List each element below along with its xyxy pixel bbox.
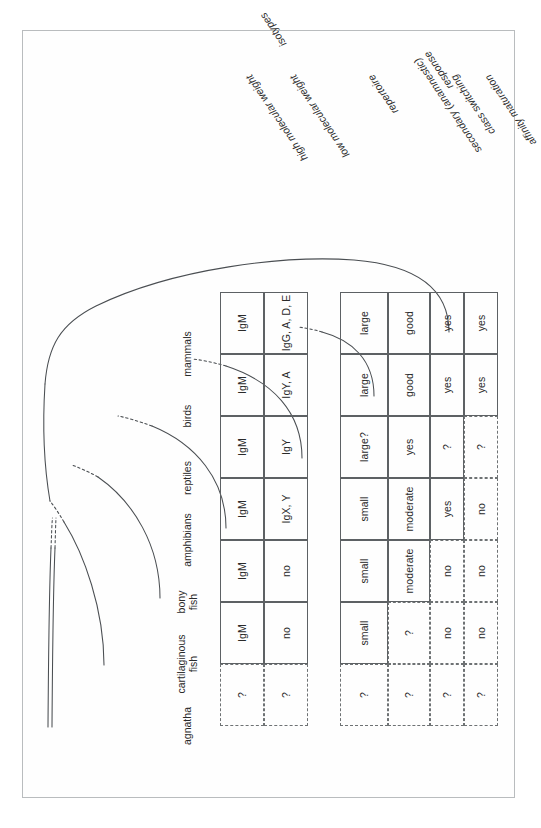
cell-high-molecular-weight-cartilaginous-fish: IgM	[220, 602, 264, 664]
cell-affinity-maturation-agnatha: ?	[464, 664, 498, 726]
tree-branch-agnatha-b	[52, 548, 55, 727]
species-label-birds-line-0: birds	[182, 380, 194, 452]
immunity-evolution-figure: ? no no no ? yes yes ? no no yes ? yes y…	[34, 44, 504, 784]
species-label-agnatha-line-0: agnatha	[182, 690, 194, 762]
tree-branch-agnatha-a-dotted	[51, 518, 52, 548]
cell-repertoire-mammals: large	[340, 292, 388, 354]
cell-low-molecular-weight-birds: IgY, A	[264, 354, 308, 416]
figure-rotation-wrapper: ? no no no ? yes yes ? no no yes ? yes y…	[34, 44, 504, 784]
cell-secondary-response-reptiles: yes	[388, 416, 430, 478]
cell-affinity-maturation-birds: yes	[464, 354, 498, 416]
cell-secondary-response-mammals: good	[388, 292, 430, 354]
cell-low-molecular-weight-reptiles: IgY	[264, 416, 308, 478]
cell-secondary-response-bony-fish: moderate	[388, 540, 430, 602]
cell-class-switching-reptiles: ?	[430, 416, 464, 478]
tree-branch-bony-fish-dotted	[72, 465, 98, 477]
cell-class-switching-birds: yes	[430, 354, 464, 416]
species-label-amphibians: amphibians	[182, 504, 194, 576]
cell-repertoire-cartilaginous-fish: small	[340, 602, 388, 664]
cell-repertoire-amphibians: small	[340, 478, 388, 540]
cell-class-switching-cartilaginous-fish: no	[430, 602, 464, 664]
cell-low-molecular-weight-cartilaginous-fish: no	[264, 602, 308, 664]
cell-secondary-response-cartilaginous-fish: ?	[388, 602, 430, 664]
species-label-birds: birds	[182, 380, 194, 452]
tree-branch-bony-fish	[98, 477, 160, 598]
species-label-reptiles-line-0: reptiles	[182, 442, 194, 514]
species-label-cartilaginous-fish-line-0: cartilaginous	[176, 628, 188, 700]
cell-repertoire-reptiles: large?	[340, 416, 388, 478]
cell-high-molecular-weight-birds: IgM	[220, 354, 264, 416]
cell-high-molecular-weight-agnatha: ?	[220, 664, 264, 726]
cell-secondary-response-birds: good	[388, 354, 430, 416]
species-label-mammals: mammals	[182, 318, 194, 390]
cell-high-molecular-weight-bony-fish: IgM	[220, 540, 264, 602]
cell-low-molecular-weight-agnatha: ?	[264, 664, 308, 726]
cell-secondary-response-amphibians: moderate	[388, 478, 430, 540]
cell-class-switching-amphibians: yes	[430, 478, 464, 540]
cell-class-switching-agnatha: ?	[430, 664, 464, 726]
tree-branch-cartilaginous-fish-dotted	[50, 501, 64, 522]
tree-root-connector	[43, 384, 49, 501]
species-label-bony-fish: bony fish	[176, 566, 199, 638]
cell-affinity-maturation-cartilaginous-fish: no	[464, 602, 498, 664]
cell-repertoire-birds: large	[340, 354, 388, 416]
cell-class-switching-bony-fish: no	[430, 540, 464, 602]
cell-affinity-maturation-reptiles: ?	[464, 416, 498, 478]
tree-branch-amphibians-dotted	[118, 416, 152, 426]
species-label-agnatha: agnatha	[182, 690, 194, 762]
species-label-cartilaginous-fish: cartilaginous fish	[176, 628, 199, 700]
cell-repertoire-agnatha: ?	[340, 664, 388, 726]
species-label-bony-fish-line-0: bony	[176, 566, 188, 638]
cell-high-molecular-weight-reptiles: IgM	[220, 416, 264, 478]
cell-secondary-response-agnatha: ?	[388, 664, 430, 726]
cell-high-molecular-weight-mammals: IgM	[220, 292, 264, 354]
cell-affinity-maturation-amphibians: no	[464, 478, 498, 540]
cell-class-switching-mammals: yes	[430, 292, 464, 354]
cell-low-molecular-weight-bony-fish: no	[264, 540, 308, 602]
cell-low-molecular-weight-mammals: IgG, A, D, E	[264, 292, 308, 354]
species-label-reptiles: reptiles	[182, 442, 194, 514]
tree-branch-agnatha-b-dotted	[55, 518, 56, 548]
page-frame: ? no no no ? yes yes ? no no yes ? yes y…	[22, 30, 515, 798]
species-label-amphibians-line-0: amphibians	[182, 504, 194, 576]
cell-affinity-maturation-mammals: yes	[464, 292, 498, 354]
cell-affinity-maturation-bony-fish: no	[464, 540, 498, 602]
tree-branch-agnatha-a	[48, 548, 51, 727]
tree-branch-cartilaginous-fish	[64, 522, 104, 665]
species-label-bony-fish-line-1: fish	[187, 566, 199, 638]
species-label-cartilaginous-fish-line-1: fish	[187, 628, 199, 700]
species-label-mammals-line-0: mammals	[182, 318, 194, 390]
cell-repertoire-bony-fish: small	[340, 540, 388, 602]
cell-high-molecular-weight-amphibians: IgM	[220, 478, 264, 540]
cell-low-molecular-weight-amphibians: IgX, Y	[264, 478, 308, 540]
